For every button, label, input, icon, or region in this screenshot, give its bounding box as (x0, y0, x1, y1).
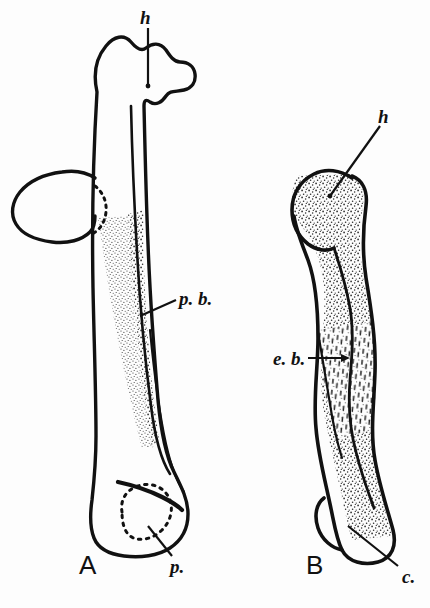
annotation-label-c: c. (402, 567, 415, 586)
annotation-label-e-b: e. b. (273, 349, 305, 368)
bone-a-lateral-process (13, 171, 95, 242)
annotation-label-h-a: h (140, 8, 151, 27)
figure-label-b: B (306, 552, 324, 578)
annotation-label-h-b: h (378, 107, 389, 126)
annotation-label-p-b: p. b. (179, 289, 212, 308)
annotation-label-p: p. (170, 557, 184, 576)
leader-dot-h-b (328, 194, 333, 199)
leader-dot-h-a (146, 84, 151, 89)
pneumatic-foramen-outline (122, 484, 172, 539)
bone-a-groove (118, 482, 182, 510)
figure-a-drawing (13, 28, 196, 557)
figure-label-a: A (79, 552, 97, 578)
plate-drawing (0, 0, 430, 608)
anatomical-plate: h h p. b. e. b. p. c. A B (0, 0, 430, 608)
figure-b-drawing (280, 126, 410, 566)
